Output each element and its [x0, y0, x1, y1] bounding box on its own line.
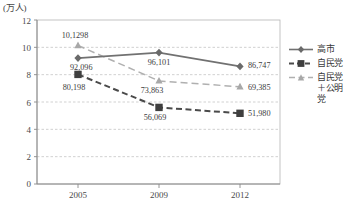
chart-legend: 高市 自民党 自民党 ＋公明 党 [288, 44, 356, 108]
x-tick-label-2012: 2012 [231, 190, 249, 200]
y-tick-label-12: 12 [22, 16, 31, 26]
y-tick-label-0: 0 [27, 179, 32, 189]
legend-label-takaichi: 高市 [317, 44, 334, 55]
x-tick-label-2005: 2005 [69, 190, 88, 200]
legend-label-ldp: 自民党 [317, 58, 343, 69]
y-tick-label-2: 2 [27, 152, 32, 162]
triangle-dashed-key-icon [288, 72, 314, 83]
diamond-solid-key-icon [288, 44, 314, 55]
data-label-ldp-komeito-2009: 73,863 [141, 86, 164, 95]
data-label-ldp-2005: 80,198 [63, 83, 86, 92]
legend-item-ldp-komeito[interactable]: 自民党 ＋公明 党 [288, 72, 356, 105]
series-ldp-marker-2012 [236, 110, 243, 117]
data-label-takaichi-2005: 92,096 [70, 63, 93, 72]
y-tick-label-4: 4 [27, 125, 32, 135]
data-label-ldp-2012: 51,980 [248, 109, 271, 118]
y-tick-label-10: 10 [22, 43, 32, 53]
y-tick-label-8: 8 [27, 70, 32, 80]
data-label-takaichi-2009: 96,101 [148, 58, 171, 67]
x-tick-label-2009: 2009 [150, 190, 169, 200]
legend-label-ldp-komeito: 自民党 ＋公明 党 [317, 72, 343, 105]
data-label-ldp-komeito-2005: 10,1298 [62, 31, 89, 40]
legend-item-takaichi[interactable]: 高市 [288, 44, 356, 55]
data-label-ldp-2009: 56,069 [144, 113, 167, 122]
square-dashed-key-icon [288, 58, 314, 69]
series-ldp-marker-2009 [155, 104, 162, 111]
line-chart: (万人) 12 10 8 6 4 2 [0, 0, 357, 207]
data-label-takaichi-2012: 86,747 [248, 61, 271, 70]
data-label-ldp-komeito-2012: 69,385 [248, 83, 271, 92]
legend-item-ldp[interactable]: 自民党 [288, 58, 356, 69]
x-tick-marks [78, 184, 240, 188]
y-tick-label-6: 6 [27, 98, 32, 108]
